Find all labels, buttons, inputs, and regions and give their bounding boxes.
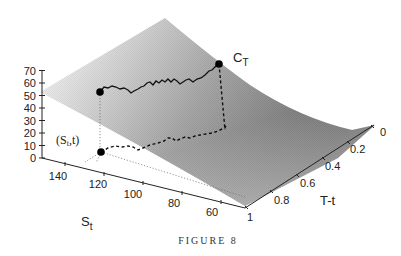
t-tick-0.8: 0.8 — [274, 194, 289, 206]
z-tick-20: 20 — [24, 127, 36, 139]
surface-plot: 70 60 50 40 30 20 10 0 140 120 100 80 60… — [0, 0, 401, 256]
z-axis: 70 60 50 40 30 20 10 0 — [24, 65, 45, 165]
t-tick-0: 0 — [380, 126, 386, 138]
ct-label: CT — [233, 50, 249, 68]
start-surface-point — [96, 88, 104, 96]
start-point-label: (St,t) — [56, 133, 79, 148]
figure-caption: FIGURE 8 — [178, 235, 238, 246]
z-tick-50: 50 — [24, 90, 36, 102]
s-tick-120: 120 — [89, 178, 107, 190]
z-tick-10: 10 — [24, 140, 36, 152]
z-tick-60: 60 — [24, 77, 36, 89]
start-base-point — [97, 148, 105, 156]
z-tick-0: 0 — [30, 152, 36, 164]
s-tick-140: 140 — [49, 170, 67, 182]
terminal-ct-point — [215, 60, 223, 68]
z-tick-70: 70 — [24, 65, 36, 77]
s-tick-80: 80 — [168, 197, 180, 209]
z-tick-40: 40 — [24, 102, 36, 114]
s-tick-60: 60 — [206, 206, 218, 218]
t-tick-0.4: 0.4 — [325, 160, 340, 172]
t-tick-1: 1 — [247, 211, 253, 223]
s-tick-100: 100 — [124, 188, 142, 200]
t-axis-label: T-t — [320, 193, 336, 208]
z-tick-30: 30 — [24, 115, 36, 127]
t-tick-0.2: 0.2 — [350, 143, 365, 155]
s-axis-label: St — [81, 214, 93, 232]
t-tick-0.6: 0.6 — [300, 177, 315, 189]
